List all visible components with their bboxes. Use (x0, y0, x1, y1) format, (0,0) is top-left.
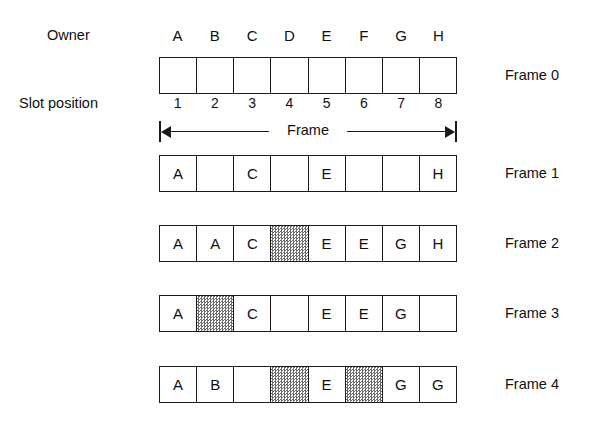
slot-owner-text: G (395, 377, 407, 392)
frame-dimension-arrow: Frame (159, 120, 457, 144)
owner-letter: G (383, 28, 420, 43)
slot-number: 6 (345, 96, 382, 110)
frame-row-label: Frame 3 (505, 306, 559, 321)
slot-cell-reserved (197, 296, 234, 331)
slot-cell: G (383, 226, 420, 261)
slot-owner-text: C (247, 236, 258, 251)
slot-cell: G (383, 367, 420, 402)
slot-owner-text: A (210, 236, 220, 251)
slot-cell (383, 58, 420, 93)
slot-owner-text: G (432, 377, 444, 392)
frame-arrow-line-left (165, 131, 269, 132)
slot-owner-text: C (247, 166, 258, 181)
slot-owner-text: A (173, 306, 183, 321)
owner-axis-label: Owner (47, 28, 90, 43)
frame-strip: AACEEGH (159, 225, 457, 262)
frame-strip: ACEEG (159, 295, 457, 332)
slot-owner-text: E (359, 236, 369, 251)
slot-owner-text: C (247, 306, 258, 321)
slot-number: 5 (308, 96, 345, 110)
slot-cell (271, 296, 308, 331)
slot-cell: E (309, 226, 346, 261)
slot-cell: C (234, 226, 271, 261)
slot-cell-reserved (346, 367, 383, 402)
slot-cell: E (309, 296, 346, 331)
slot-cell: C (234, 296, 271, 331)
frame-extent-tick-right (455, 121, 457, 142)
slot-cell: G (420, 367, 456, 402)
slot-owner-text: G (395, 306, 407, 321)
slot-cell: A (160, 156, 197, 191)
slot-number: 3 (234, 96, 271, 110)
slot-cell: H (420, 156, 456, 191)
owner-letter: B (196, 28, 233, 43)
slot-cell: E (309, 156, 346, 191)
frame-row-label: Frame 4 (505, 377, 559, 392)
slot-cell (234, 367, 271, 402)
slot-owner-text: E (322, 377, 332, 392)
frame-row-label: Frame 0 (505, 68, 559, 83)
owner-letter: E (308, 28, 345, 43)
slot-cell (346, 156, 383, 191)
slot-cell: E (346, 226, 383, 261)
slot-number: 2 (196, 96, 233, 110)
slot-cell: G (383, 296, 420, 331)
slot-cell-reserved (271, 226, 308, 261)
slot-owner-text: H (433, 236, 444, 251)
frame-dimension-label: Frame (275, 123, 341, 138)
frame-strip (159, 57, 457, 94)
slot-owner-text: E (359, 306, 369, 321)
owner-letter: H (420, 28, 457, 43)
frame-arrow-line-right (347, 131, 451, 132)
slot-number: 7 (383, 96, 420, 110)
slot-cell (420, 296, 456, 331)
slot-owner-text: H (433, 166, 444, 181)
slot-owner-text: A (173, 236, 183, 251)
slot-cell: B (197, 367, 234, 402)
slot-cell: A (160, 296, 197, 331)
slot-cell (309, 58, 346, 93)
slot-cell (271, 156, 308, 191)
owner-letter: F (345, 28, 382, 43)
slot-cell: E (309, 367, 346, 402)
frame-row-label: Frame 2 (505, 236, 559, 251)
arrow-left-icon (161, 126, 171, 138)
slot-number: 4 (271, 96, 308, 110)
slot-cell-reserved (271, 367, 308, 402)
slot-cell: A (160, 367, 197, 402)
slot-position-axis-label: Slot position (19, 96, 98, 111)
slot-owner-text: E (322, 166, 332, 181)
slot-cell (197, 156, 234, 191)
slot-owner-text: A (173, 377, 183, 392)
slot-cell: E (346, 296, 383, 331)
arrow-right-icon (445, 126, 455, 138)
frame-strip: ABEGG (159, 366, 457, 403)
owner-letter: D (271, 28, 308, 43)
slot-numbers-row: 12345678 (159, 96, 457, 110)
owner-letters-row: ABCDEFGH (159, 28, 457, 43)
slot-cell (234, 58, 271, 93)
slot-owner-text: E (322, 306, 332, 321)
slot-cell (346, 58, 383, 93)
slot-cell: H (420, 226, 456, 261)
slot-owner-text: G (395, 236, 407, 251)
slot-cell: A (160, 226, 197, 261)
slot-cell (383, 156, 420, 191)
slot-cell: A (197, 226, 234, 261)
owner-letter: A (159, 28, 196, 43)
slot-cell (197, 58, 234, 93)
frame-strip: ACEH (159, 155, 457, 192)
slot-owner-text: E (322, 236, 332, 251)
slot-cell: C (234, 156, 271, 191)
slot-number: 8 (420, 96, 457, 110)
slot-owner-text: A (173, 166, 183, 181)
owner-letter: C (234, 28, 271, 43)
frame-row-label: Frame 1 (505, 166, 559, 181)
slot-allocation-diagram: Owner Slot position ABCDEFGH 12345678 Fr… (0, 0, 607, 443)
slot-cell (271, 58, 308, 93)
slot-cell (420, 58, 456, 93)
slot-number: 1 (159, 96, 196, 110)
slot-cell (160, 58, 197, 93)
slot-owner-text: B (210, 377, 220, 392)
